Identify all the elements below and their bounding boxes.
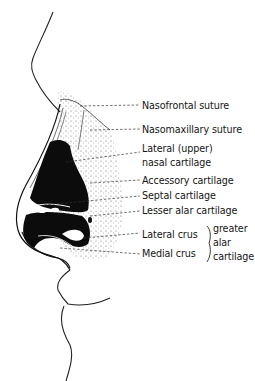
label-lesser-alar-cartilage: Lesser alar cartilage [142,205,237,216]
label-greater: greater [213,223,248,234]
face-profile-upper [32,12,60,112]
label-accessory-cartilage: Accessory cartilage [142,175,234,186]
brace-icon [207,226,210,262]
label-lateral-crus: Lateral crus [142,229,198,240]
label-nasal-cartilage: nasal cartilage [142,157,211,168]
label-medial-crus: Medial crus [142,248,196,259]
label-lateral-upper: Lateral (upper) [142,143,213,154]
label-septal-cartilage: Septal cartilage [142,190,216,201]
label-cartilage: cartilage [213,251,254,262]
label-alar: alar [213,237,231,248]
face-profile-lower [58,270,110,381]
label-nasofrontal-suture: Nasofrontal suture [142,100,229,111]
label-nasomaxillary-suture: Nasomaxillary suture [142,124,242,135]
alar-cartilage-dark [23,212,90,248]
nose-anatomy-illustration [0,0,255,381]
